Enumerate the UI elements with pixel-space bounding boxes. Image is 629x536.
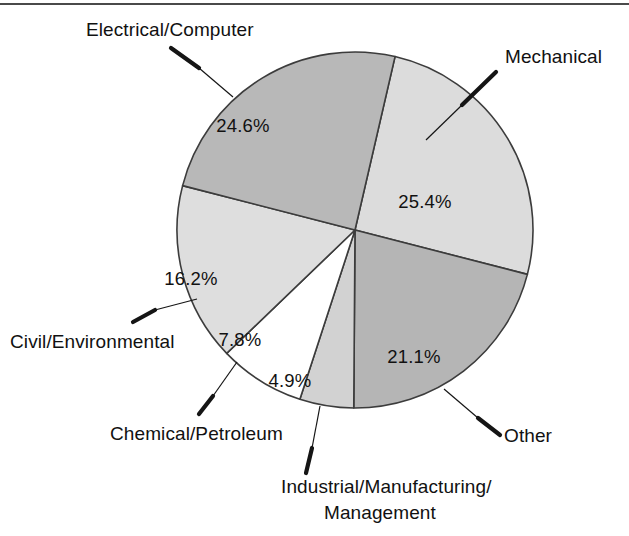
pie-category-label-chemical-petroleum: Chemical/Petroleum [110,423,283,444]
figure-container: 25.4%21.1%4.9%7.8%16.2%24.6% MechanicalO… [0,0,629,536]
pie-category-label-other: Other [504,425,553,446]
pie-chart: 25.4%21.1%4.9%7.8%16.2%24.6% MechanicalO… [0,0,629,536]
pie-percent-label-civil-environmental: 16.2% [164,268,217,289]
pie-percent-label-electrical-computer: 24.6% [216,115,269,136]
leader-line-chemical-petroleum [213,362,237,396]
pie-category-label-mechanical: Mechanical [505,46,602,67]
leader-line-stub-civil-environmental [133,310,155,322]
leader-line-industrial-manufacturing-management [312,406,320,448]
pie-percent-label-other: 21.1% [387,346,440,367]
pie-category-label-industrial-manufacturing-management-line2: Management [324,502,437,523]
leader-line-other [444,389,478,418]
pie-category-label-civil-environmental: Civil/Environmental [10,331,175,352]
pie-percent-label-mechanical: 25.4% [398,191,451,212]
pie-slices-group [177,52,533,408]
pie-percent-label-industrial-manufacturing-management: 4.9% [269,370,312,391]
leader-line-civil-environmental [155,299,197,310]
leader-line-stub-industrial-manufacturing-management [306,448,312,473]
leader-line-stub-other [478,418,500,435]
leader-line-electrical-computer [199,68,233,97]
pie-category-label-industrial-manufacturing-management: Industrial/Manufacturing/ [281,476,492,497]
pie-percent-label-chemical-petroleum: 7.8% [219,329,262,350]
pie-category-label-electrical-computer: Electrical/Computer [86,19,254,40]
leader-line-stub-chemical-petroleum [199,396,213,414]
leader-line-stub-mechanical [462,72,496,105]
leader-line-stub-electrical-computer [171,48,199,68]
